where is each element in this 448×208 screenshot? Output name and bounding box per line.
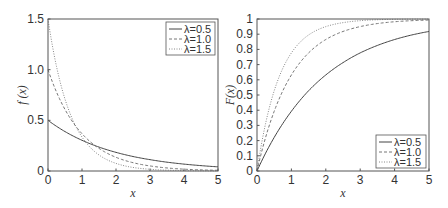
pdf-legend-label-2: λ=1.5 [184,43,211,55]
pdf-x-tick-label: 5 [215,173,222,187]
cdf-y-tick-label: 0.2 [236,134,253,148]
figure: 01234500.51.01.5 f (x) x λ=0.5 λ=1.0 λ=1… [0,0,448,208]
cdf-y-tick-label: 1 [246,12,253,26]
pdf-x-axis-label: x [129,186,136,200]
pdf-y-tick-label: 1.5 [27,12,44,26]
cdf-y-tick-label: 0.8 [236,42,253,56]
cdf-y-tick-label: 0.4 [236,103,253,117]
cdf-y-tick-label: 0.6 [236,73,253,87]
pdf-x-tick-label: 0 [45,173,52,187]
cdf-y-tick-label: 0.9 [236,27,253,41]
cdf-y-tick-label: 0.5 [236,88,253,102]
pdf-x-tick-label: 3 [147,173,154,187]
pdf-y-tick-label: 0 [37,164,44,178]
cdf-x-tick-label: 1 [288,173,295,187]
pdf-curve-solid [48,120,218,167]
cdf-chart: 01234500.10.20.30.40.50.60.70.80.91 F(x)… [223,12,433,200]
cdf-x-tick-label: 0 [254,173,261,187]
cdf-x-tick-label: 3 [357,173,364,187]
cdf-x-tick-label: 5 [426,173,433,187]
pdf-y-tick-label: 1.0 [27,63,44,77]
cdf-x-tick-label: 2 [322,173,329,187]
cdf-legend: λ=0.5 λ=1.0 λ=1.5 [376,135,426,168]
cdf-y-tick-label: 0.7 [236,58,253,72]
pdf-curve-dashed [48,70,218,171]
pdf-legend: λ=0.5 λ=1.0 λ=1.5 [166,22,215,55]
pdf-chart: 01234500.51.01.5 f (x) x λ=0.5 λ=1.0 λ=1… [15,12,222,200]
cdf-x-axis-label: x [339,186,346,200]
cdf-y-axis-label: F(x) [223,85,237,107]
pdf-x-tick-label: 4 [181,173,188,187]
pdf-x-tick-label: 2 [113,173,120,187]
cdf-x-tick-label: 4 [391,173,398,187]
cdf-y-tick-label: 0.3 [236,118,253,132]
pdf-y-tick-label: 0.5 [27,113,44,127]
cdf-legend-label-2: λ=1.5 [394,156,421,168]
cdf-y-tick-label: 0.1 [236,149,253,163]
cdf-y-tick-label: 0 [246,164,253,178]
pdf-x-tick-label: 1 [79,173,86,187]
pdf-y-axis-label: f (x) [15,85,29,105]
